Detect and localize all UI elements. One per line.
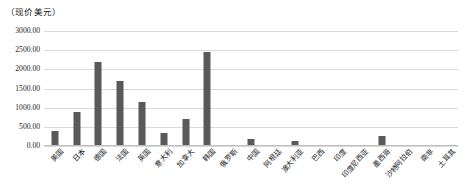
bar	[204, 52, 211, 146]
bar	[139, 102, 146, 146]
y-axis-tick-labels: 3000.002500.002000.001500.001000.00500.0…	[0, 31, 40, 146]
y-tick-label: 2000.00	[0, 65, 40, 73]
x-tick-label: 澳大利亚	[280, 148, 305, 174]
x-tick-label: 墨西哥	[372, 148, 392, 169]
x-axis-line	[44, 145, 458, 146]
x-tick-label: 印度	[333, 148, 348, 164]
y-tick-label: 1500.00	[0, 85, 40, 93]
bar-slot	[153, 31, 175, 146]
bar-slot	[371, 31, 393, 146]
bar-slot	[284, 31, 306, 146]
x-tick-label: 土耳其	[437, 148, 457, 169]
bar	[160, 133, 167, 146]
bar	[73, 112, 80, 147]
bar	[95, 62, 102, 146]
bar-slot	[349, 31, 371, 146]
bar-slot	[240, 31, 262, 146]
gridline	[44, 146, 458, 147]
bar-slot	[175, 31, 197, 146]
bar-slot	[393, 31, 415, 146]
x-tick-label: 韩国	[202, 148, 217, 164]
bar-slot	[131, 31, 153, 146]
x-tick-label: 法国	[115, 148, 130, 164]
y-tick-label: 3000.00	[0, 27, 40, 35]
bar	[117, 81, 124, 146]
x-tick-label: 美国	[50, 148, 65, 164]
bar-slot	[88, 31, 110, 146]
x-tick-label: 日本	[71, 148, 86, 164]
x-tick-label: 意大利	[154, 148, 174, 169]
x-tick-label: 阿根廷	[263, 148, 283, 169]
bar-slot	[436, 31, 458, 146]
bar-slot	[197, 31, 219, 146]
x-tick-label: 中国	[246, 148, 261, 164]
bar-chart: （现价美元） 3000.002500.002000.001500.001000.…	[0, 0, 465, 194]
bar	[51, 131, 58, 146]
x-tick-label: 英国	[137, 148, 152, 164]
bar-slot	[109, 31, 131, 146]
bar	[182, 119, 189, 146]
y-tick-label: 2500.00	[0, 46, 40, 54]
x-tick-label: 加拿大	[176, 148, 196, 169]
bar-slot	[66, 31, 88, 146]
y-tick-label: 0.00	[0, 142, 40, 150]
plot-area	[44, 31, 458, 146]
bar-series	[44, 31, 458, 146]
bar-slot	[414, 31, 436, 146]
x-axis-tick-labels: 美国日本德国法国英国意大利加拿大韩国俄罗斯中国阿根廷澳大利亚巴西印度印度尼西亚墨…	[44, 148, 458, 194]
y-tick-label: 500.00	[0, 123, 40, 131]
y-tick-label: 1000.00	[0, 104, 40, 112]
bar-slot	[218, 31, 240, 146]
bar-slot	[305, 31, 327, 146]
x-tick-label: 南非	[420, 148, 435, 164]
x-tick-label: 德国	[93, 148, 108, 164]
x-tick-label: 巴西	[311, 148, 326, 164]
bar-slot	[44, 31, 66, 146]
axis-unit-label: （现价美元）	[6, 5, 61, 17]
bar-slot	[327, 31, 349, 146]
bar-slot	[262, 31, 284, 146]
x-tick-label: 俄罗斯	[219, 148, 239, 169]
